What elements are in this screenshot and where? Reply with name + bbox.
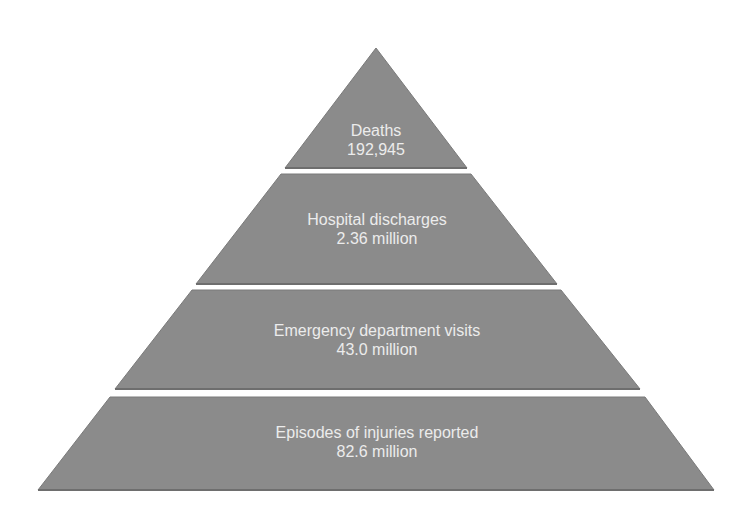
tier-emergency-visits-value: 43.0 million: [274, 340, 480, 359]
tier-injuries-reported-title: Episodes of injuries reported: [276, 423, 479, 442]
tier-injuries-reported-value: 82.6 million: [276, 442, 479, 461]
tier-hospital-discharges-value: 2.36 million: [307, 229, 447, 248]
tier-hospital-discharges-title: Hospital discharges: [307, 210, 447, 229]
tier-deaths-label: Deaths 192,945: [347, 121, 405, 159]
tier-deaths-value: 192,945: [347, 140, 405, 159]
tier-deaths-title: Deaths: [347, 121, 405, 140]
tier-emergency-visits-label: Emergency department visits 43.0 million: [274, 321, 480, 359]
injury-pyramid-diagram: Deaths 192,945 Hospital discharges 2.36 …: [0, 0, 755, 509]
tier-injuries-reported-label: Episodes of injuries reported 82.6 milli…: [276, 423, 479, 461]
tier-emergency-visits-title: Emergency department visits: [274, 321, 480, 340]
tier-hospital-discharges-label: Hospital discharges 2.36 million: [307, 210, 447, 248]
